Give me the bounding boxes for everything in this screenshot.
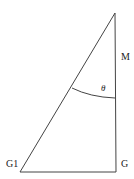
label-theta: θ [101,83,106,93]
angle-arc [72,88,115,98]
label-m: M [121,51,130,62]
label-g1: G1 [6,158,18,169]
label-g: G [121,158,128,169]
triangle-diagram: M θ G1 G [0,0,134,179]
vertical-side-line [115,13,116,172]
